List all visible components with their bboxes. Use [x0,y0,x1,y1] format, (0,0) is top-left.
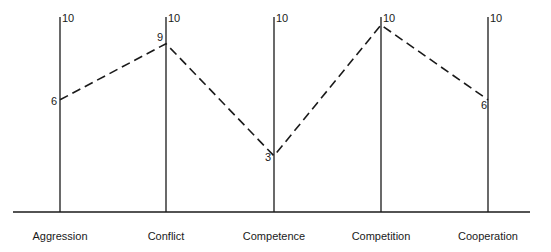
category-label-cooperation: Cooperation [458,230,518,242]
point-value-label: 6 [51,95,57,107]
category-label-conflict: Conflict [148,230,185,242]
parallel-axis-profile-chart: 1010101010 6936 AggressionConflictCompet… [0,0,551,252]
category-labels: AggressionConflictCompetenceCompetitionC… [32,230,517,242]
point-value-label: 6 [481,99,487,111]
axis-max-label: 10 [62,12,74,24]
axis-max-label: 10 [276,12,288,24]
point-value-label: 9 [157,31,163,43]
category-label-aggression: Aggression [32,230,87,242]
chart-canvas: 1010101010 6936 AggressionConflictCompet… [0,0,551,252]
axis-max-label: 10 [490,12,502,24]
point-value-labels: 6936 [51,31,487,163]
category-axes: 1010101010 [60,12,502,212]
point-value-label: 3 [265,151,271,163]
category-label-competition: Competition [352,230,411,242]
axis-max-label: 10 [383,12,395,24]
category-label-competence: Competence [243,230,305,242]
axis-max-label: 10 [168,12,180,24]
